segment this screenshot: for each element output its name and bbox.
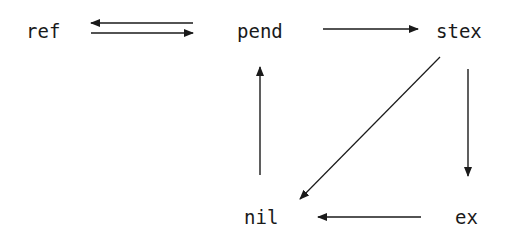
edge-stex-to-nil bbox=[300, 57, 440, 199]
node-ex: ex bbox=[455, 208, 478, 227]
node-ref: ref bbox=[26, 22, 60, 41]
node-pend: pend bbox=[237, 22, 283, 41]
node-nil: nil bbox=[244, 208, 278, 227]
node-stex: stex bbox=[436, 22, 482, 41]
